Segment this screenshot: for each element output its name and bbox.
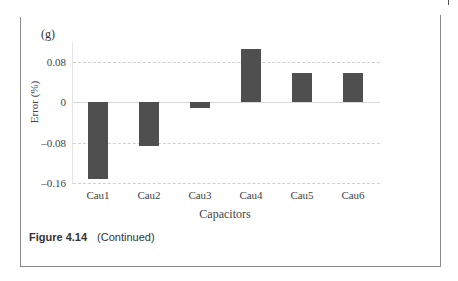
page-corner-mark xyxy=(448,0,449,5)
figure-caption: Figure 4.14(Continued) xyxy=(29,231,155,243)
y-axis-line xyxy=(72,42,73,184)
gridline-0-08 xyxy=(73,62,380,63)
figure-caption-text: (Continued) xyxy=(97,231,154,243)
gridline-neg-0-16 xyxy=(73,183,380,184)
y-tick-label: 0 xyxy=(20,96,66,108)
figure-number: Figure 4.14 xyxy=(29,231,87,243)
bar-cau3 xyxy=(190,102,210,108)
x-tick-label: Cau5 xyxy=(277,189,327,201)
panel-label: (g) xyxy=(41,27,55,42)
x-tick-label: Cau3 xyxy=(175,189,225,201)
x-tick-label: Cau1 xyxy=(73,189,123,201)
bar-cau2 xyxy=(139,102,159,146)
gridline-zero xyxy=(73,102,380,103)
figure-frame-bottom xyxy=(20,266,441,267)
x-tick-label: Cau4 xyxy=(226,189,276,201)
bar-cau5 xyxy=(292,73,312,102)
y-tick-label: –0.08 xyxy=(20,137,66,149)
x-tick-label: Cau6 xyxy=(328,189,378,201)
bar-cau1 xyxy=(88,102,108,179)
figure-frame-right xyxy=(440,15,441,267)
y-tick-label: –0.16 xyxy=(20,177,66,189)
gridline-neg-0-08 xyxy=(73,143,380,144)
bar-cau6 xyxy=(343,73,363,102)
y-axis-label: Error (%) xyxy=(28,62,40,142)
bar-cau4 xyxy=(241,49,261,102)
x-tick-label: Cau2 xyxy=(124,189,174,201)
x-axis-label: Capacitors xyxy=(175,207,275,222)
y-tick-label: 0.08 xyxy=(20,56,66,68)
